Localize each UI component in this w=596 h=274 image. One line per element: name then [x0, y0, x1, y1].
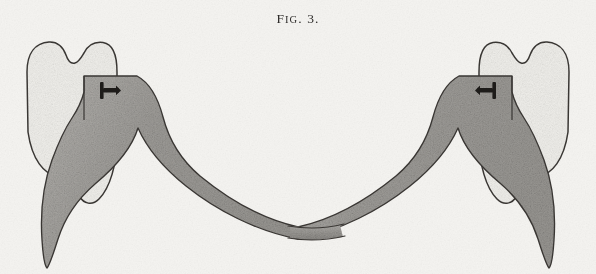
figure-page: FIG. 3. [0, 0, 596, 274]
caption-period: . [298, 11, 307, 26]
caption-text: FIG. 3. [276, 11, 319, 27]
caption-lead-letter: F [276, 11, 285, 26]
left-saddle [41, 76, 298, 268]
caption-number: 3. [307, 11, 319, 26]
caption-small-caps: IG [285, 14, 298, 25]
right-saddle [298, 76, 555, 268]
figure-caption: FIG. 3. [0, 9, 596, 27]
figure-illustration [0, 0, 596, 274]
